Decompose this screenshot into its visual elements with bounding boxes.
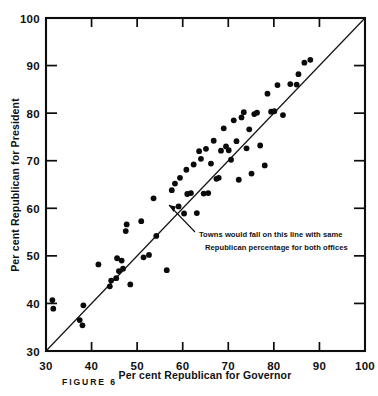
data-point (280, 112, 286, 118)
data-point (181, 211, 187, 217)
data-point (244, 145, 250, 151)
data-point (120, 266, 126, 272)
data-point (188, 190, 194, 196)
data-point (198, 156, 204, 162)
x-axis-ticks (92, 342, 320, 351)
data-point (169, 187, 175, 193)
y-axis-ticks (46, 66, 57, 304)
data-point (108, 278, 114, 284)
y-tick-label: 80 (27, 108, 40, 120)
y-tick-label: 90 (27, 60, 40, 72)
data-point (294, 82, 300, 88)
data-point (239, 115, 245, 121)
data-point (176, 203, 182, 209)
data-point (107, 283, 113, 289)
x-tick-label: 100 (355, 360, 375, 372)
data-point (138, 218, 144, 224)
data-point (80, 322, 86, 328)
data-point (50, 306, 56, 312)
y-axis-ticks-right (354, 66, 365, 304)
figure-container: 30405060708090100 30405060708090100 Town… (0, 0, 378, 396)
data-point (205, 190, 211, 196)
data-point-group (49, 57, 313, 328)
data-point (246, 126, 252, 132)
data-point (127, 282, 133, 288)
data-point (151, 195, 157, 201)
data-point (124, 222, 130, 228)
data-point (123, 228, 129, 234)
data-point (146, 252, 152, 258)
data-point (234, 138, 240, 144)
y-tick-label: 40 (27, 298, 40, 310)
data-point (257, 143, 263, 149)
annotation-line-2: Republican percentage for both offices (205, 243, 348, 252)
y-axis-title: Per cent Republican for President (9, 98, 21, 272)
data-point (254, 110, 260, 116)
data-point (208, 161, 214, 167)
data-point (287, 81, 293, 87)
data-point (262, 163, 268, 169)
data-point (307, 57, 313, 63)
y-tick-label: 70 (27, 155, 40, 167)
x-tick-label: 40 (85, 360, 98, 372)
data-point (196, 148, 202, 154)
data-point (80, 302, 86, 308)
data-point (49, 297, 55, 303)
data-point (301, 60, 307, 66)
data-point (218, 148, 224, 154)
data-point (249, 171, 255, 177)
data-point (241, 109, 247, 115)
x-axis-ticks-top (92, 18, 320, 27)
y-axis-tick-labels: 30405060708090100 (20, 13, 40, 358)
y-tick-label: 100 (20, 13, 40, 25)
data-point (231, 117, 237, 123)
data-point (177, 175, 183, 181)
data-point (119, 258, 125, 264)
data-point (265, 91, 271, 97)
data-point (221, 125, 227, 131)
data-point (216, 175, 222, 181)
data-point (275, 82, 281, 88)
x-tick-label: 30 (39, 360, 52, 372)
data-point (183, 167, 189, 173)
x-tick-label: 90 (313, 360, 326, 372)
data-point (226, 147, 232, 153)
data-point (203, 146, 209, 152)
data-point (271, 108, 277, 114)
scatter-plot: 30405060708090100 30405060708090100 Town… (0, 0, 378, 396)
data-point (153, 233, 159, 239)
data-point (77, 317, 83, 323)
data-point (236, 177, 242, 183)
data-point (191, 162, 197, 168)
figure-caption: FIGURE 6 (62, 377, 117, 387)
y-tick-label: 30 (27, 346, 40, 358)
y-tick-label: 60 (27, 203, 40, 215)
data-point (172, 181, 178, 187)
y-tick-label: 50 (27, 250, 40, 262)
data-point (194, 210, 200, 216)
data-point (296, 71, 302, 77)
data-point (164, 267, 170, 273)
data-point (113, 275, 119, 281)
data-point (211, 138, 217, 144)
data-point (228, 157, 234, 163)
data-point (96, 262, 102, 268)
annotation-line-1: Towns would fall on this line with same (199, 230, 343, 239)
data-point (141, 254, 147, 260)
x-axis-title: Per cent Republican for Governor (119, 369, 292, 381)
identity-reference-line (46, 18, 365, 351)
